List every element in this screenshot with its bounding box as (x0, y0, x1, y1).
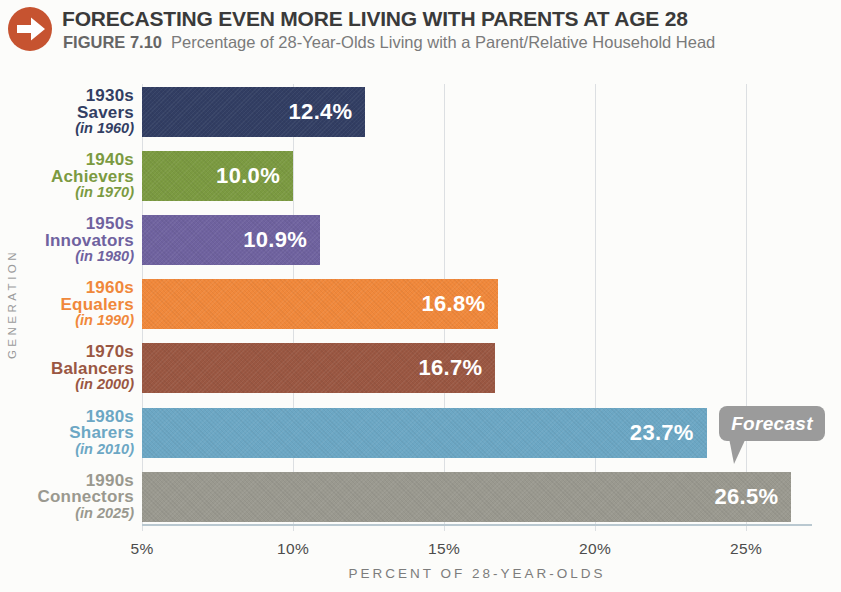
x-axis-line (142, 524, 812, 526)
chart-title: FORECASTING EVEN MORE LIVING WITH PARENT… (62, 7, 822, 31)
category-name: Innovators (45, 233, 134, 250)
x-axis-title: PERCENT OF 28-YEAR-OLDS (277, 566, 677, 581)
x-tick-label: 10% (261, 540, 325, 558)
bar: 10.9% (142, 215, 320, 265)
bar-value-label: 16.7% (418, 355, 495, 381)
category-year-note: (in 2000) (75, 377, 134, 392)
x-tick-label: 15% (412, 540, 476, 558)
bar-category-label: 1970s Balancers (in 2000) (0, 343, 134, 393)
category-name: Achievers (51, 169, 134, 186)
bar-row: 1970s Balancers (in 2000) 16.7% (0, 343, 841, 393)
bar: 23.7% (142, 408, 707, 458)
figure-caption-text: Percentage of 28-Year-Olds Living with a… (171, 33, 715, 51)
category-year-note: (in 1980) (75, 249, 134, 264)
bar: 16.8% (142, 279, 498, 329)
bar-row: 1980s Sharers (in 2010) 23.7% (0, 408, 841, 458)
forecast-badge: Forecast (719, 406, 825, 441)
category-year-note: (in 2025) (75, 506, 134, 521)
bar: 16.7% (142, 343, 495, 393)
bar-value-label: 16.8% (421, 291, 498, 317)
bar-category-label: 1940s Achievers (in 1970) (0, 151, 134, 201)
bar-category-label: 1990s Connectors (in 2025) (0, 472, 134, 522)
category-name: Connectors (38, 489, 134, 506)
category-year-note: (in 1970) (75, 185, 134, 200)
forecast-bubble-tail (729, 438, 746, 464)
category-name: Savers (77, 105, 134, 122)
figure-7-10: FORECASTING EVEN MORE LIVING WITH PARENT… (0, 0, 841, 592)
bar-value-label: 26.5% (714, 484, 791, 510)
bar: 10.0% (142, 151, 293, 201)
category-year-note: (in 1960) (75, 121, 134, 136)
category-year-note: (in 1990) (75, 313, 134, 328)
category-year-note: (in 2010) (75, 442, 134, 457)
bar-value-label: 12.4% (289, 99, 366, 125)
bar-row: 1960s Equalers (in 1990) 16.8% (0, 279, 841, 329)
x-tick-label: 25% (714, 540, 778, 558)
arrow-right-circle-icon (8, 7, 52, 51)
x-tick-label: 5% (110, 540, 174, 558)
bar: 12.4% (142, 87, 365, 137)
category-name: Equalers (61, 297, 134, 314)
category-name: Balancers (51, 361, 134, 378)
x-tick-label: 20% (563, 540, 627, 558)
category-name: Sharers (69, 425, 134, 442)
bar-category-label: 1980s Sharers (in 2010) (0, 408, 134, 458)
bar-value-label: 10.0% (216, 163, 293, 189)
bar-row: 1940s Achievers (in 1970) 10.0% (0, 151, 841, 201)
bar-row: 1930s Savers (in 1960) 12.4% (0, 87, 841, 137)
bar-category-label: 1930s Savers (in 1960) (0, 87, 134, 137)
bar: 26.5% (142, 472, 791, 522)
bar-value-label: 10.9% (243, 227, 320, 253)
figure-caption: FIGURE 7.10Percentage of 28-Year-Olds Li… (63, 33, 841, 52)
bar-category-label: 1950s Innovators (in 1980) (0, 215, 134, 265)
bar-row: 1990s Connectors (in 2025) 26.5% (0, 472, 841, 522)
bar-value-label: 23.7% (630, 420, 707, 446)
bar-category-label: 1960s Equalers (in 1990) (0, 279, 134, 329)
bar-row: 1950s Innovators (in 1980) 10.9% (0, 215, 841, 265)
figure-number-label: FIGURE 7.10 (63, 33, 162, 51)
arrow-right-glyph (8, 7, 52, 51)
